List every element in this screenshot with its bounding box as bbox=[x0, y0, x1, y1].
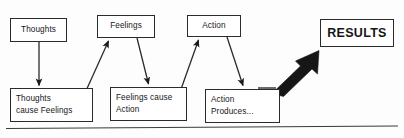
box-feelings-cause-line2: Action bbox=[116, 104, 186, 117]
connector-feelings-down bbox=[137, 38, 149, 84]
box-action-produces-line2: Produces... bbox=[211, 106, 279, 119]
box-results[interactable]: RESULTS bbox=[320, 19, 394, 47]
box-results-label: RESULTS bbox=[327, 27, 387, 40]
box-action-produces-line1: Action bbox=[211, 94, 279, 107]
box-action-label: Action bbox=[202, 20, 225, 33]
box-feelings[interactable]: Feelings bbox=[97, 15, 155, 38]
baseline-rule bbox=[6, 126, 398, 129]
box-feelings-cause-line1: Feelings cause bbox=[116, 92, 186, 105]
box-feelings-cause-action[interactable]: Feelings cause Action bbox=[110, 87, 187, 121]
box-thoughts-cause-line1: Thoughts bbox=[16, 93, 92, 106]
box-thoughts-cause-feelings[interactable]: Thoughts cause Feelings bbox=[10, 88, 93, 122]
box-action[interactable]: Action bbox=[187, 15, 241, 37]
box-thoughts-cause-line2: cause Feelings bbox=[16, 105, 92, 118]
connector-action-down bbox=[227, 37, 243, 86]
box-action-produces[interactable]: Action Produces... bbox=[205, 89, 280, 123]
box-thoughts[interactable]: Thoughts bbox=[10, 18, 67, 42]
box-feelings-label: Feelings bbox=[110, 20, 142, 33]
box-thoughts-label: Thoughts bbox=[21, 24, 56, 37]
diagram-canvas: Thoughts Feelings Action RESULTS Thought… bbox=[0, 0, 404, 138]
connector-thoughts-cause-up bbox=[85, 41, 109, 93]
connector-feelings-cause-up bbox=[180, 40, 199, 92]
